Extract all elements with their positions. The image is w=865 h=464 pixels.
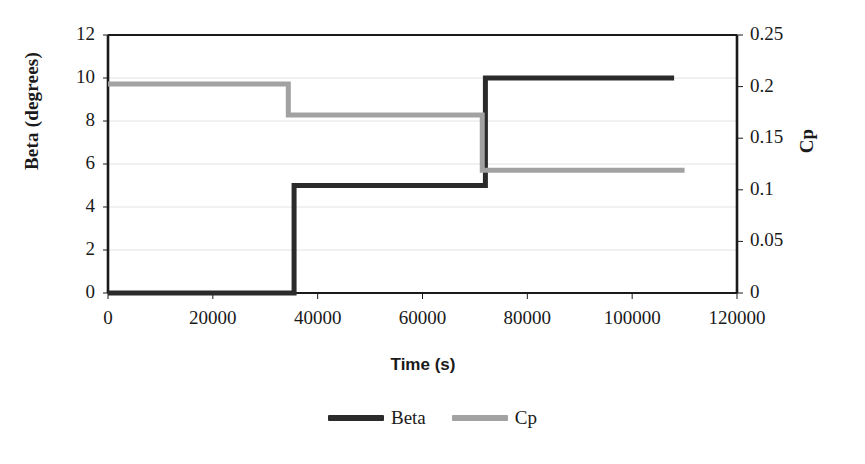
y-tick-label-left: 0	[35, 281, 95, 303]
y-tick-label-left: 12	[35, 23, 95, 45]
y-tick-label-left: 6	[35, 152, 95, 174]
plot-area	[0, 0, 865, 464]
y-tick-label-right: 0.05	[750, 229, 820, 251]
y-tick-label-right: 0	[750, 281, 820, 303]
x-tick-label: 20000	[153, 307, 273, 329]
axis-ticks	[103, 35, 743, 299]
x-tick-label: 120000	[677, 307, 797, 329]
series-line-cp	[108, 84, 685, 170]
legend-item-beta[interactable]: Beta	[328, 408, 426, 427]
y-tick-label-right: 0.15	[750, 126, 820, 148]
x-tick-label: 40000	[258, 307, 378, 329]
legend-swatch-cp	[452, 415, 508, 421]
data-series	[108, 78, 685, 293]
y-tick-label-right: 0.1	[750, 178, 820, 200]
x-tick-label: 60000	[363, 307, 483, 329]
legend-label: Cp	[515, 408, 537, 427]
legend-label: Beta	[391, 408, 426, 427]
y-tick-label-right: 0.2	[750, 75, 820, 97]
gridlines	[108, 35, 737, 250]
series-line-beta	[108, 78, 674, 293]
chart-legend: BetaCp	[0, 408, 865, 427]
legend-item-cp[interactable]: Cp	[452, 408, 537, 427]
y-tick-label-left: 2	[35, 238, 95, 260]
y-tick-label-left: 4	[35, 195, 95, 217]
x-tick-label: 80000	[467, 307, 587, 329]
y-tick-label-right: 0.25	[750, 23, 820, 45]
legend-swatch-beta	[328, 415, 384, 421]
chart-container: Beta (degrees) Cp Time (s) 024681012 00.…	[0, 0, 865, 464]
x-tick-label: 100000	[572, 307, 692, 329]
x-tick-label: 0	[48, 307, 168, 329]
y-tick-label-left: 8	[35, 109, 95, 131]
y-tick-label-left: 10	[35, 66, 95, 88]
